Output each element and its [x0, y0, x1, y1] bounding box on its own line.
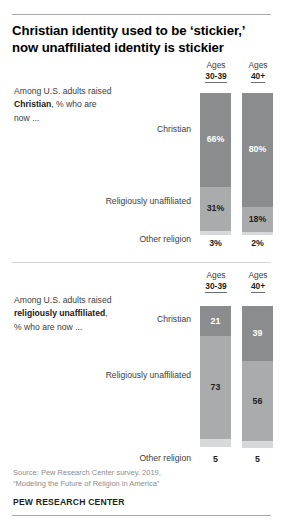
panel-1-value-other-30-39: 3% — [200, 238, 231, 248]
panel-1-segment-other-30-39: 3% — [200, 231, 231, 235]
panel-2-col2-line2: 40+ — [251, 281, 265, 293]
panel-2-segment-christian-40-plus: 39 — [242, 306, 273, 361]
panel-2-column-header-40-plus: Ages 40+ — [239, 270, 277, 293]
page-title: Christian identity used to be ‘stickier,… — [12, 22, 274, 56]
panel-raised-unaffiliated: Among U.S. adults raised religiously una… — [0, 268, 283, 480]
top-divider — [12, 14, 271, 15]
brand-label: PEW RESEARCH CENTER — [13, 497, 125, 507]
panel-2-value-other-30-39: 5 — [200, 454, 231, 464]
panel-1-row-label-unaffiliated: Religiously unaffiliated — [81, 196, 191, 208]
panel-1-col2-line1: Ages — [248, 60, 267, 70]
panel-1-value-other-40-plus: 2% — [242, 238, 273, 248]
panel-2-row-label-other: Other religion — [81, 453, 191, 465]
panel-1-column-header-30-39: Ages 30-39 — [197, 60, 235, 83]
source-line-1: Source: Pew Research Center survey, 2019… — [13, 468, 161, 477]
panel-2-bar-ages-40-plus: 39 56 5 — [242, 306, 273, 448]
panel-2-row-label-christian: Christian — [81, 314, 191, 326]
panel-1-intro: Among U.S. adults raised Christian, % wh… — [14, 85, 164, 125]
panel-raised-christian: Among U.S. adults raised Christian, % wh… — [0, 58, 283, 258]
panel-1-intro-bold: Christian — [14, 99, 51, 109]
panel-1-bar-ages-40-plus: 80% 18% 2% — [242, 93, 273, 235]
panel-2-intro-line3: % who are now ... — [14, 322, 82, 332]
panel-1-segment-other-40-plus: 2% — [242, 232, 273, 235]
panel-2-segment-other-40-plus: 5 — [242, 441, 273, 448]
panel-1-intro-line3: now ... — [14, 113, 39, 123]
panel-2-bar-ages-30-39: 21 73 5 — [200, 306, 231, 447]
panel-1-bar-ages-30-39: 66% 31% 3% — [200, 93, 231, 235]
bottom-divider — [12, 515, 271, 516]
panel-2-row-label-unaffiliated: Religiously unaffiliated — [81, 370, 191, 382]
panel-2-segment-unaffiliated-40-plus: 56 — [242, 361, 273, 441]
panel-2-column-header-30-39: Ages 30-39 — [197, 270, 235, 293]
source-line-2: “Modeling the Future of Religion in Amer… — [13, 479, 159, 488]
panel-1-row-label-christian: Christian — [81, 124, 191, 136]
panel-2-intro-line1: Among U.S. adults raised — [14, 295, 111, 305]
panel-1-column-header-40-plus: Ages 40+ — [239, 60, 277, 83]
panel-2-col2-line1: Ages — [248, 270, 267, 280]
panel-2-segment-unaffiliated-30-39: 73 — [200, 336, 231, 440]
panel-1-segment-unaffiliated-40-plus: 18% — [242, 207, 273, 233]
panel-1-segment-christian-30-39: 66% — [200, 93, 231, 187]
infographic-card: Christian identity used to be ‘stickier,… — [0, 0, 283, 531]
panel-2-segment-other-30-39: 5 — [200, 439, 231, 446]
panel-2-col1-line1: Ages — [206, 270, 225, 280]
panel-divider — [12, 262, 271, 263]
panel-1-segment-unaffiliated-30-39: 31% — [200, 187, 231, 231]
panel-1-col2-line2: 40+ — [251, 71, 265, 83]
panel-1-row-label-other: Other religion — [81, 234, 191, 246]
panel-1-col1-line1: Ages — [206, 60, 225, 70]
panel-1-intro-line2: , % who are — [51, 99, 96, 109]
source-note: Source: Pew Research Center survey, 2019… — [13, 468, 271, 490]
panel-2-segment-christian-30-39: 21 — [200, 306, 231, 336]
panel-1-segment-christian-40-plus: 80% — [242, 93, 273, 207]
panel-2-col1-line2: 30-39 — [205, 281, 226, 293]
panel-1-col1-line2: 30-39 — [205, 71, 226, 83]
panel-2-value-other-40-plus: 5 — [242, 454, 273, 464]
panel-1-intro-line1: Among U.S. adults raised — [14, 86, 111, 96]
